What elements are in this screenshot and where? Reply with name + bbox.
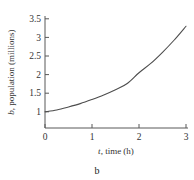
chart-figure: 3.5 3 2.5 2 1.5 1 0 1 2 3 b, population … (0, 0, 194, 180)
y-axis-ticks (45, 19, 49, 112)
x-axis-title: t, time (h) (98, 146, 134, 156)
x-axis-ticks (45, 124, 186, 128)
figure-caption: b (95, 165, 100, 176)
x-axis-title-rest: , time (h) (101, 146, 134, 156)
chart-plot-area: 3.5 3 2.5 2 1.5 1 0 1 2 3 b, population … (0, 0, 194, 180)
y-axis-title-rest: , population (millions) (6, 29, 16, 110)
y-axis-title: b, population (millions) (6, 29, 16, 114)
y-tick-label: 3 (36, 33, 41, 43)
x-tick-label: 2 (137, 132, 142, 142)
y-tick-label: 3.5 (29, 14, 41, 24)
x-tick-label: 0 (43, 132, 48, 142)
y-tick-label: 1.5 (29, 88, 41, 98)
y-tick-label: 2 (36, 70, 41, 80)
x-tick-label: 3 (184, 132, 189, 142)
y-tick-label: 2.5 (29, 51, 41, 61)
population-curve (45, 26, 186, 112)
x-tick-label: 1 (90, 132, 95, 142)
y-tick-label: 1 (36, 107, 41, 117)
